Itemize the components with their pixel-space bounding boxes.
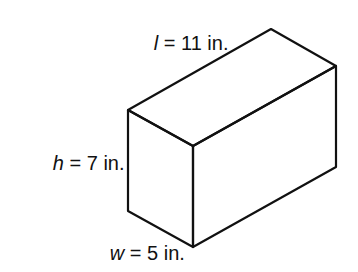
length-unit: in. [202, 32, 229, 54]
height-value: 7 [87, 152, 98, 174]
height-variable: h [53, 152, 64, 174]
width-label: w = 5 in. [82, 242, 202, 264]
width-unit: in. [158, 242, 185, 264]
length-label: l = 11 in. [126, 32, 245, 54]
prism-edges [128, 29, 336, 247]
length-value: 11 [181, 32, 202, 54]
front-right-face [193, 66, 336, 247]
width-equals: = [124, 242, 147, 264]
rectangular-prism-diagram: l = 11 in. h = 7 in. w = 5 in. [0, 0, 358, 272]
length-equals: = [158, 32, 181, 54]
width-value: 5 [147, 242, 158, 264]
height-unit: in. [98, 152, 125, 174]
height-label: h = 7 in. [25, 152, 141, 174]
height-equals: = [64, 152, 87, 174]
front-left-face [128, 110, 193, 247]
